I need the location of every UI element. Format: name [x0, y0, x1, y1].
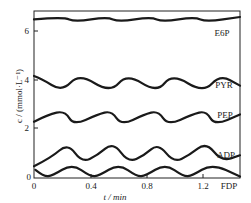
x-tick-label: 0.8: [141, 181, 153, 191]
y-axis-title: c / (mmol·L⁻¹): [14, 69, 24, 123]
curve-pep: [34, 112, 240, 122]
series-label-pep: PEP: [217, 110, 233, 120]
curve-fdp: [35, 167, 240, 177]
curve-adp: [34, 146, 240, 166]
curve-pyr: [34, 76, 240, 88]
series-label-adp: ADP: [217, 150, 235, 160]
x-tick-label: 1.2: [197, 181, 208, 191]
y-tick-label: 6: [25, 26, 30, 36]
line-chart: 6 4 2 0 c / (mmol·L⁻¹) 0 0.4 0.8 1.2 t /…: [0, 0, 251, 203]
y-tick-label: 0: [27, 172, 32, 182]
y-tick-label: 2: [25, 123, 30, 133]
series-label-fdp: FDP: [221, 181, 238, 191]
series-label-pyr: PYR: [215, 80, 233, 90]
series-label-e6p: E6P: [214, 28, 229, 38]
series-curves: [34, 17, 240, 177]
curve-e6p: [34, 17, 240, 21]
plot-frame: [34, 11, 240, 178]
x-axis-title: t / min: [103, 192, 127, 202]
y-tick-label: 4: [25, 75, 30, 85]
x-tick-label: 0.4: [85, 181, 97, 191]
x-tick-label: 0: [32, 181, 37, 191]
